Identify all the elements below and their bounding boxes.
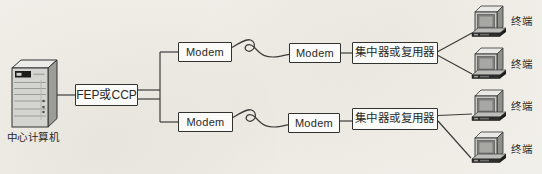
connector-concentrator-to-terminal-2 (438, 56, 472, 75)
terminal-label: 终端 (509, 15, 535, 27)
concentrator-label: 集中器或复用器 (355, 47, 435, 59)
modem-label: Modem (186, 117, 224, 128)
phone-line-wave-top (232, 40, 289, 57)
terminal-icon (472, 48, 506, 79)
terminal-icon (472, 90, 506, 121)
modem-box-bottom-far: Modem (288, 113, 340, 133)
terminal-label: 终端 (509, 143, 535, 155)
connector-concentrator-to-terminal-1 (438, 33, 472, 52)
concentrator-label: 集中器或复用器 (355, 113, 435, 125)
terminal-icon (472, 6, 506, 37)
modem-box-top-near: Modem (178, 42, 232, 62)
concentrator-box-bottom: 集中器或复用器 (352, 108, 438, 130)
connector-concentrator-to-terminal-3 (438, 114, 472, 116)
phone-line-wave-bottom (233, 110, 290, 127)
concentrator-box-top: 集中器或复用器 (352, 42, 438, 64)
central-computer-label: 中心计算机 (4, 131, 62, 143)
terminal-label: 终端 (509, 58, 535, 70)
modem-label: Modem (296, 48, 334, 59)
fep-label: FEP或CCP (76, 89, 137, 101)
modem-box-top-far: Modem (289, 43, 341, 63)
terminal-icon (472, 132, 506, 163)
server-tower-icon (12, 60, 57, 127)
terminal-label: 终端 (509, 100, 535, 112)
modem-label: Modem (186, 47, 224, 58)
connector-concentrator-to-terminal-4 (438, 121, 471, 158)
fep-box: FEP或CCP (75, 84, 138, 106)
diagram-page: FEP或CCP Modem Modem 集中器或复用器 Modem Modem … (0, 0, 542, 174)
modem-box-bottom-near: Modem (178, 112, 233, 132)
modem-label: Modem (295, 118, 333, 129)
